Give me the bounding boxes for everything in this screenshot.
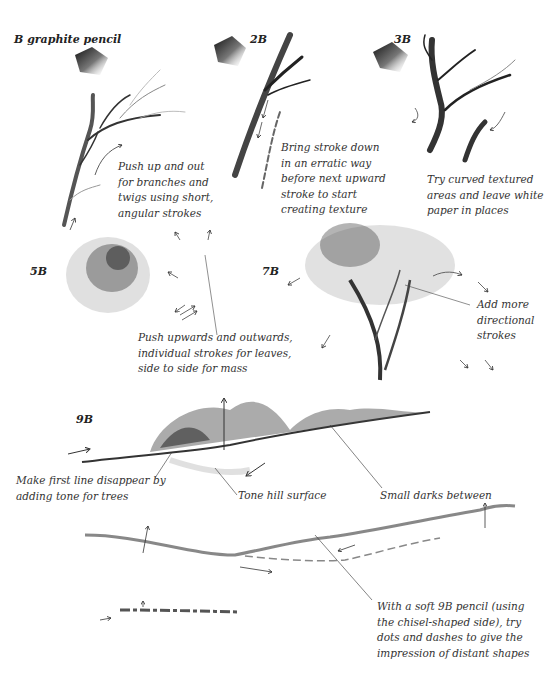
annotation-first-line: Make first line disappear by adding tone… <box>16 473 166 504</box>
annotation-branches: Push up and out for branches and twigs u… <box>118 159 213 221</box>
3b-tree-sketch <box>424 35 515 160</box>
7b-tree-sketch <box>305 223 455 380</box>
9b-hill-sketch <box>82 402 430 472</box>
grade-label-9b: 9B <box>76 413 93 426</box>
grade-label-2b: 2B <box>250 33 267 46</box>
5b-bush-sketch <box>66 237 150 313</box>
grade-label-5b: 5B <box>30 265 47 278</box>
distant-landscape-sketch <box>85 505 515 612</box>
annotation-tone-hill: Tone hill surface <box>238 488 326 504</box>
grade-label-7b: 7B <box>262 265 279 278</box>
annotation-small-darks: Small darks between <box>380 488 492 504</box>
annotation-directional: Add more directional strokes <box>477 297 534 344</box>
grade-label-3b: 3B <box>394 33 411 46</box>
annotation-stroke-down: Bring stroke down in an erratic way befo… <box>281 140 386 218</box>
annotation-leaves: Push upwards and outwards, individual st… <box>138 330 293 377</box>
graphite-swatch-icon <box>75 36 408 75</box>
page-title: B graphite pencil <box>14 33 121 46</box>
annotation-curved: Try curved textured areas and leave whit… <box>427 172 543 219</box>
annotation-soft-pencil: With a soft 9B pencil (using the chisel-… <box>377 599 529 661</box>
